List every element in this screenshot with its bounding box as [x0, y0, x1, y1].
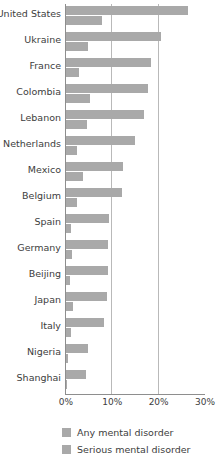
legend-item-serious-mental-disorder[interactable]: Serious mental disorder — [62, 441, 216, 458]
chart-row: France — [0, 56, 216, 82]
category-label: United States — [0, 8, 61, 20]
bar-serious-mental-disorder[interactable] — [66, 354, 68, 363]
category-label: Spain — [0, 216, 61, 228]
category-label: Germany — [0, 242, 61, 254]
chart-row: Lebanon — [0, 108, 216, 134]
bar-chart: United StatesUkraineFranceColombiaLebano… — [0, 0, 216, 470]
bar-serious-mental-disorder[interactable] — [66, 42, 88, 51]
bar-any-mental-disorder[interactable] — [66, 188, 122, 197]
bar-any-mental-disorder[interactable] — [66, 84, 148, 93]
bar-serious-mental-disorder[interactable] — [66, 16, 102, 25]
bar-any-mental-disorder[interactable] — [66, 162, 123, 171]
bar-any-mental-disorder[interactable] — [66, 318, 104, 327]
x-axis-tick-label: 10% — [102, 397, 122, 408]
bar-any-mental-disorder[interactable] — [66, 6, 188, 15]
x-axis-tick-label: 20% — [149, 397, 169, 408]
legend-swatch-icon — [62, 445, 71, 454]
bar-serious-mental-disorder[interactable] — [66, 224, 71, 233]
chart-row: Italy — [0, 316, 216, 342]
category-label: Colombia — [0, 86, 61, 98]
category-label: Mexico — [0, 164, 61, 176]
bar-serious-mental-disorder[interactable] — [66, 250, 72, 259]
category-label: Japan — [0, 294, 61, 306]
chart-rows: United StatesUkraineFranceColombiaLebano… — [0, 4, 216, 394]
bar-serious-mental-disorder[interactable] — [66, 302, 73, 311]
bar-serious-mental-disorder[interactable] — [66, 94, 90, 103]
bar-serious-mental-disorder[interactable] — [66, 120, 87, 129]
chart-row: Ukraine — [0, 30, 216, 56]
bar-serious-mental-disorder[interactable] — [66, 328, 71, 337]
bar-any-mental-disorder[interactable] — [66, 292, 107, 301]
bar-serious-mental-disorder[interactable] — [66, 68, 79, 77]
x-axis-tick-label: 0% — [59, 397, 73, 408]
category-label: Ukraine — [0, 34, 61, 46]
chart-row: Nigeria — [0, 342, 216, 368]
legend-label: Any mental disorder — [77, 427, 173, 438]
legend-item-any-mental-disorder[interactable]: Any mental disorder — [62, 424, 216, 441]
category-label: Italy — [0, 320, 61, 332]
x-axis-line — [65, 394, 205, 395]
legend-label: Serious mental disorder — [77, 444, 191, 455]
chart-row: Mexico — [0, 160, 216, 186]
bar-any-mental-disorder[interactable] — [66, 58, 151, 67]
chart-row: Germany — [0, 238, 216, 264]
bar-any-mental-disorder[interactable] — [66, 266, 108, 275]
chart-row: Netherlands — [0, 134, 216, 160]
chart-row: United States — [0, 4, 216, 30]
bar-serious-mental-disorder[interactable] — [66, 146, 77, 155]
chart-row: Shanghai — [0, 368, 216, 394]
chart-legend: Any mental disorder Serious mental disor… — [62, 424, 216, 458]
x-axis-tick-label: 30% — [195, 397, 215, 408]
bar-serious-mental-disorder[interactable] — [66, 172, 83, 181]
legend-swatch-icon — [62, 428, 71, 437]
chart-row: Spain — [0, 212, 216, 238]
bar-any-mental-disorder[interactable] — [66, 136, 135, 145]
bar-serious-mental-disorder[interactable] — [66, 276, 70, 285]
category-label: Shanghai — [0, 372, 61, 384]
bar-any-mental-disorder[interactable] — [66, 32, 161, 41]
category-label: Nigeria — [0, 346, 61, 358]
bar-any-mental-disorder[interactable] — [66, 110, 144, 119]
category-label: Netherlands — [0, 138, 61, 150]
bar-serious-mental-disorder[interactable] — [66, 198, 77, 207]
bar-serious-mental-disorder[interactable] — [66, 380, 67, 389]
bar-any-mental-disorder[interactable] — [66, 344, 88, 353]
category-label: France — [0, 60, 61, 72]
bar-any-mental-disorder[interactable] — [66, 214, 109, 223]
category-label: Lebanon — [0, 112, 61, 124]
bar-any-mental-disorder[interactable] — [66, 370, 86, 379]
chart-row: Colombia — [0, 82, 216, 108]
chart-row: Japan — [0, 290, 216, 316]
category-label: Belgium — [0, 190, 61, 202]
chart-row: Beijing — [0, 264, 216, 290]
bar-any-mental-disorder[interactable] — [66, 240, 108, 249]
chart-row: Belgium — [0, 186, 216, 212]
category-label: Beijing — [0, 268, 61, 280]
